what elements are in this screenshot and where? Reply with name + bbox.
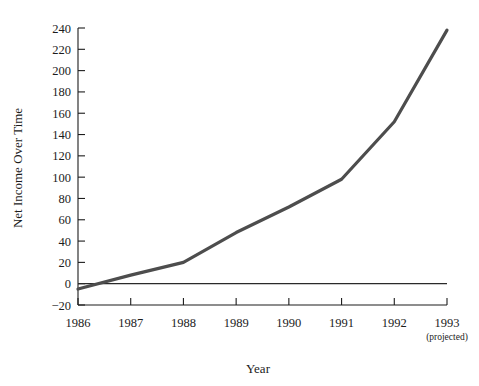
y-axis-ticks: −20020406080100120140160180200220240	[51, 22, 85, 313]
x-tick-label: 1986	[66, 316, 91, 330]
y-tick-label: 220	[52, 43, 71, 57]
y-tick-label: 0	[65, 277, 71, 291]
line-chart-canvas: −20020406080100120140160180200220240 198…	[0, 0, 479, 386]
y-tick-label: −20	[51, 299, 71, 313]
x-tick-label: 1988	[171, 316, 196, 330]
x-tick-label: 1991	[329, 316, 354, 330]
y-tick-label: 180	[52, 85, 71, 99]
x-tick-sublabel: (projected)	[426, 332, 468, 343]
y-tick-label: 40	[59, 235, 72, 249]
chart-figure: −20020406080100120140160180200220240 198…	[0, 0, 479, 386]
y-tick-label: 100	[52, 171, 71, 185]
y-tick-label: 120	[52, 149, 71, 163]
y-tick-label: 160	[52, 107, 71, 121]
x-tick-label: 1993	[435, 316, 460, 330]
y-tick-label: 140	[52, 128, 71, 142]
x-tick-label: 1989	[224, 316, 249, 330]
y-tick-label: 20	[59, 256, 72, 270]
data-series-group	[78, 30, 447, 289]
x-tick-label: 1990	[276, 316, 301, 330]
y-axis-title: Net Income Over Time	[10, 108, 25, 228]
x-axis-title: Year	[246, 361, 271, 376]
y-tick-label: 200	[52, 64, 71, 78]
y-tick-label: 240	[52, 22, 71, 36]
y-tick-label: 80	[59, 192, 72, 206]
data-line-net-income	[78, 30, 447, 289]
y-tick-label: 60	[59, 213, 72, 227]
x-tick-label: 1987	[118, 316, 143, 330]
x-tick-label: 1992	[382, 316, 407, 330]
